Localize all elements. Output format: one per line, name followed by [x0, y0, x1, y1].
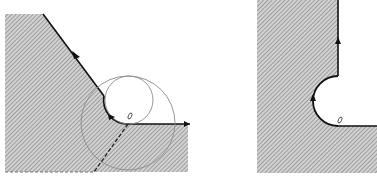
left-panel [5, 14, 190, 172]
diagram-figure [0, 0, 377, 181]
right-panel [257, 0, 377, 173]
point-marker [337, 116, 343, 123]
point-marker [127, 112, 133, 119]
left-hatched-region [5, 14, 188, 172]
